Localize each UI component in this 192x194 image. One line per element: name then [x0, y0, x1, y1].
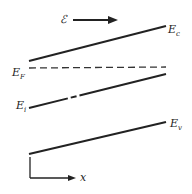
band-diagram	[0, 0, 192, 194]
ev-label: Ev	[170, 118, 182, 132]
conduction-band-line	[29, 26, 166, 61]
ec-label: Ec	[168, 24, 180, 38]
intrinsic-level-line	[29, 74, 166, 108]
ei-label: Ei	[16, 100, 26, 114]
x-axis-label: x	[80, 172, 86, 183]
fermi-level-line	[29, 67, 166, 68]
ef-label: EF	[12, 67, 25, 81]
field-label: ℰ	[60, 14, 67, 25]
axis-arrow-head	[68, 175, 76, 181]
valence-band-line	[29, 122, 166, 154]
field-arrow-head	[108, 16, 118, 24]
